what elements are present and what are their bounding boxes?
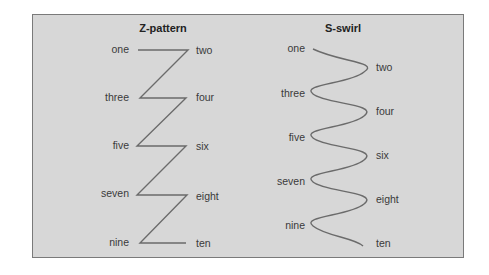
s-label-ten: ten (376, 237, 391, 249)
s-swirl-line (311, 49, 368, 246)
z-label-four: four (196, 91, 214, 103)
z-label-seven: seven (101, 187, 129, 199)
s-label-two: two (376, 61, 392, 73)
s-swirl-title: S-swirl (325, 22, 361, 34)
s-label-three: three (281, 87, 305, 99)
z-label-nine: nine (109, 236, 129, 248)
z-label-eight: eight (196, 190, 219, 202)
z-label-six: six (196, 140, 209, 152)
z-label-one: one (111, 43, 129, 55)
z-pattern-title: Z-pattern (139, 22, 187, 34)
z-pattern-line (137, 50, 188, 243)
s-label-eight: eight (376, 193, 399, 205)
z-label-five: five (113, 139, 129, 151)
z-label-three: three (105, 91, 129, 103)
z-label-ten: ten (196, 237, 211, 249)
s-label-nine: nine (285, 219, 305, 231)
connector-lines (0, 0, 489, 275)
s-label-seven: seven (277, 175, 305, 187)
z-label-two: two (196, 44, 212, 56)
s-label-one: one (287, 42, 305, 54)
s-label-five: five (289, 131, 305, 143)
s-label-four: four (376, 105, 394, 117)
s-label-six: six (376, 149, 389, 161)
